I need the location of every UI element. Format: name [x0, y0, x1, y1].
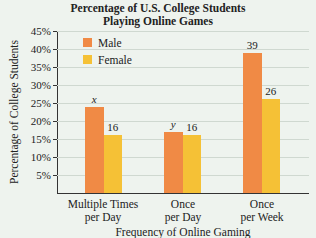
y-tick-label: 15%: [31, 134, 51, 145]
category-label-line2: per Day: [165, 211, 202, 224]
y-tick: [53, 103, 57, 104]
y-tick-label: 45%: [31, 26, 51, 37]
bar-female: [104, 135, 123, 193]
y-tick: [53, 121, 57, 122]
bar-female: [262, 99, 281, 193]
chart-title-line1: Percentage of U.S. College Students: [0, 2, 316, 15]
y-tick: [53, 85, 57, 86]
y-axis-line: [57, 31, 58, 193]
category-label-once-per-day: Once per Day: [165, 198, 202, 224]
y-axis-label: Percentage of College Students: [8, 40, 20, 184]
category-label-once-per-week: Once per Week: [240, 198, 283, 224]
category-label-line1: Once: [165, 198, 202, 211]
y-tick: [53, 139, 57, 140]
legend: Male Female: [83, 34, 132, 68]
y-tick-label: 20%: [31, 116, 51, 127]
category-label-multiple-times: Multiple Times per Day: [68, 198, 139, 224]
y-tick-label: 25%: [31, 98, 51, 109]
y-tick: [53, 67, 57, 68]
category-label-line1: Once: [240, 198, 283, 211]
legend-item-female: Female: [83, 51, 132, 68]
category-label-line2: per Day: [68, 211, 139, 224]
bar-female: [183, 135, 202, 193]
bar-value-label: 16: [101, 121, 125, 133]
y-tick: [53, 157, 57, 158]
y-tick-label: 5%: [36, 170, 51, 181]
y-tick: [53, 31, 57, 32]
bar-male: [164, 132, 183, 193]
y-tick-label: 35%: [31, 62, 51, 73]
category-label-line1: Multiple Times: [68, 198, 139, 211]
bar-value-label: 26: [259, 85, 283, 97]
y-tick: [53, 175, 57, 176]
legend-item-male: Male: [83, 34, 132, 51]
y-tick-label: 10%: [31, 152, 51, 163]
legend-label-male: Male: [98, 37, 122, 49]
male-swatch-icon: [83, 38, 92, 47]
category-label-line2: per Week: [240, 211, 283, 224]
bar-value-label: 39: [240, 39, 264, 51]
y-tick: [53, 49, 57, 50]
y-tick-label: 40%: [31, 44, 51, 55]
bar-value-label: x: [82, 93, 106, 105]
y-tick-label: 30%: [31, 80, 51, 91]
legend-label-female: Female: [98, 54, 132, 66]
bar-value-label: 16: [180, 121, 204, 133]
female-swatch-icon: [83, 55, 92, 64]
bar-male: [85, 107, 104, 193]
gridline: [57, 31, 309, 32]
bar-male: [243, 53, 262, 193]
x-axis-label: Frequency of Online Gaming: [57, 226, 309, 238]
